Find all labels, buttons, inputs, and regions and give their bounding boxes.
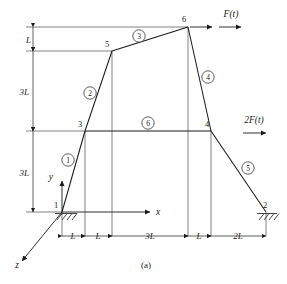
dim-label-h-4: L: [195, 231, 201, 241]
element-tag-6-label: 6: [146, 119, 150, 128]
element-tag-1-label: 1: [66, 156, 70, 165]
frame-diagram-svg: 1 2 3 4 5 6 1 2 3 4 5 6 F(t) 2F(t): [0, 0, 287, 284]
member-5-node4-node2: [211, 131, 266, 212]
element-tag-2-label: 2: [88, 89, 92, 98]
level-guides: [26, 27, 188, 212]
z-axis: [22, 212, 62, 261]
dim-label-v-3: 3L: [18, 168, 29, 178]
frame-members: [62, 27, 266, 212]
axis-label-z: z: [14, 260, 19, 270]
force-label-2ft: 2F(t): [244, 115, 264, 126]
element-tag-5: 5: [242, 162, 254, 174]
figure-container: 1 2 3 4 5 6 1 2 3 4 5 6 F(t) 2F(t): [0, 0, 287, 284]
element-tag-3-label: 3: [137, 32, 141, 41]
member-3-node5-node6: [112, 27, 188, 51]
node-label-1: 1: [54, 200, 58, 210]
dim-label-v-2: 3L: [18, 87, 29, 97]
element-tag-4: 4: [202, 71, 214, 83]
figure-caption: (a): [141, 260, 151, 270]
dim-label-v-1: L: [25, 35, 31, 45]
element-tag-5-label: 5: [246, 164, 250, 173]
node-label-6: 6: [182, 14, 186, 24]
support-node-2: [257, 214, 279, 221]
element-tag-4-label: 4: [206, 73, 210, 82]
node-label-5: 5: [105, 39, 109, 49]
node-label-2: 2: [263, 200, 267, 210]
dim-label-h-1: L: [69, 231, 75, 241]
element-tag-3: 3: [133, 30, 145, 42]
force-label-ft: F(t): [223, 9, 239, 20]
element-tag-2: 2: [84, 87, 96, 99]
coordinate-axes: [22, 181, 150, 261]
node-label-3: 3: [78, 119, 82, 129]
dim-label-h-5: 2L: [233, 231, 243, 241]
dim-label-h-2: L: [94, 231, 100, 241]
element-tag-1: 1: [62, 154, 74, 166]
axis-label-y: y: [48, 172, 54, 182]
member-1-node1-node3: [62, 131, 85, 212]
dim-label-h-3: 3L: [144, 231, 155, 241]
axis-label-x: x: [155, 207, 161, 217]
element-tag-6: 6: [142, 117, 154, 129]
